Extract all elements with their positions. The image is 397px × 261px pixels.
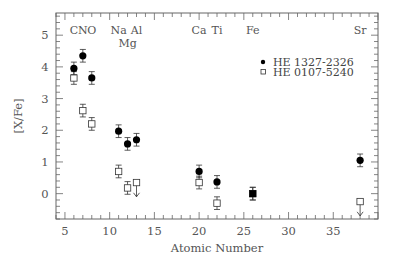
open-square-marker <box>133 179 139 185</box>
open-square-marker <box>196 179 202 185</box>
data-point <box>79 49 86 62</box>
y-tick-labels: 012345 <box>41 28 48 200</box>
open-square-marker <box>80 107 86 113</box>
y-tick-label: 0 <box>41 187 48 201</box>
filled-circle-marker <box>115 128 122 135</box>
legend-marker-open-square <box>261 70 266 75</box>
element-label-ti: Ti <box>212 24 223 37</box>
y-tick-label: 5 <box>41 28 48 42</box>
open-square-marker <box>89 121 95 127</box>
filled-circle-marker <box>88 74 95 81</box>
open-square-marker <box>214 200 220 206</box>
data-point <box>115 165 121 178</box>
element-label-na: Na <box>111 24 128 37</box>
data-point <box>88 72 95 85</box>
data-point <box>133 179 139 196</box>
data-point <box>249 187 256 200</box>
filled-circle-marker <box>124 140 131 147</box>
legend-label-series-2: HE 0107-5240 <box>273 66 354 79</box>
y-axis-label: [X/Fe] <box>11 98 25 133</box>
y-tick-label: 3 <box>41 92 48 106</box>
data-point <box>357 198 363 215</box>
y-tick-label: 1 <box>41 155 48 169</box>
open-square-marker <box>115 168 121 174</box>
x-tick-label: 25 <box>237 224 252 238</box>
open-square-marker <box>357 198 363 204</box>
y-tick-label: 4 <box>41 60 48 74</box>
x-tick-label: 10 <box>102 224 117 238</box>
data-point <box>124 138 131 151</box>
filled-circle-marker <box>70 65 77 72</box>
filled-circle-marker <box>79 52 86 59</box>
x-axis-label: Atomic Number <box>170 241 264 255</box>
data-point <box>80 104 86 117</box>
open-square-marker <box>71 75 77 81</box>
y-tick-label: 2 <box>41 123 48 137</box>
abundance-chart: 5101520253035 012345 CNONaMgAlCaTiFeSr A… <box>0 0 397 261</box>
element-label-c: C <box>70 24 78 37</box>
data-point <box>133 133 140 146</box>
filled-circle-marker <box>213 178 220 185</box>
data-point <box>214 197 220 210</box>
legend: HE 1327-2326 HE 0107-5240 <box>261 56 354 79</box>
data-point <box>357 154 364 167</box>
open-square-marker <box>124 185 130 191</box>
x-tick-label: 15 <box>147 224 162 238</box>
x-tick-label: 5 <box>61 224 68 238</box>
filled-circle-marker <box>196 168 203 175</box>
x-tick-label: 30 <box>281 224 296 238</box>
element-label-ca: Ca <box>192 24 207 37</box>
data-point <box>89 118 95 131</box>
legend-marker-filled-circle <box>261 60 265 64</box>
element-label-mg: Mg <box>118 37 136 50</box>
element-label-o: O <box>87 24 96 37</box>
x-tick-labels: 5101520253035 <box>61 224 340 238</box>
filled-circle-marker <box>357 157 364 164</box>
element-labels: CNONaMgAlCaTiFeSr <box>70 24 368 50</box>
data-point <box>70 62 77 75</box>
filled-circle-marker <box>133 136 140 143</box>
data-point <box>213 176 220 189</box>
element-label-sr: Sr <box>354 24 368 37</box>
data-point <box>115 125 122 138</box>
data-point <box>124 182 130 195</box>
x-tick-label: 20 <box>192 224 207 238</box>
element-label-al: Al <box>130 24 143 37</box>
element-label-fe: Fe <box>246 24 260 37</box>
filled-marker <box>249 190 256 197</box>
x-tick-label: 35 <box>326 224 341 238</box>
